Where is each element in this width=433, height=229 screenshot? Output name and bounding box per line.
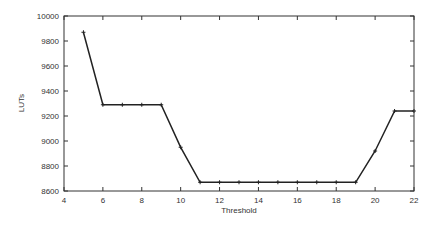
x-tick-label: 14 bbox=[254, 196, 263, 205]
y-tick-label: 9800 bbox=[41, 37, 59, 46]
x-tick-label: 8 bbox=[140, 196, 145, 205]
x-tick-label: 22 bbox=[410, 196, 419, 205]
y-tick-label: 10000 bbox=[37, 12, 60, 21]
y-tick-label: 9600 bbox=[41, 62, 59, 71]
x-axis-label: Threshold bbox=[221, 206, 257, 215]
x-tick-label: 20 bbox=[371, 196, 380, 205]
y-tick-label: 8800 bbox=[41, 162, 59, 171]
x-tick-label: 10 bbox=[176, 196, 185, 205]
x-tick-label: 4 bbox=[62, 196, 67, 205]
plot-frame bbox=[64, 16, 414, 191]
y-tick-label: 8600 bbox=[41, 187, 59, 196]
y-tick-label: 9400 bbox=[41, 87, 59, 96]
axis-ticks: 4681012141618202286008800900092009400960… bbox=[37, 12, 419, 205]
data-series bbox=[81, 30, 416, 184]
y-tick-label: 9200 bbox=[41, 112, 59, 121]
x-tick-label: 6 bbox=[101, 196, 106, 205]
series-line bbox=[83, 32, 414, 182]
x-tick-label: 16 bbox=[293, 196, 302, 205]
line-chart: 4681012141618202286008800900092009400960… bbox=[0, 0, 433, 229]
y-axis-label: LUTs bbox=[17, 94, 26, 112]
x-tick-label: 12 bbox=[215, 196, 224, 205]
y-tick-label: 9000 bbox=[41, 137, 59, 146]
x-tick-label: 18 bbox=[332, 196, 341, 205]
